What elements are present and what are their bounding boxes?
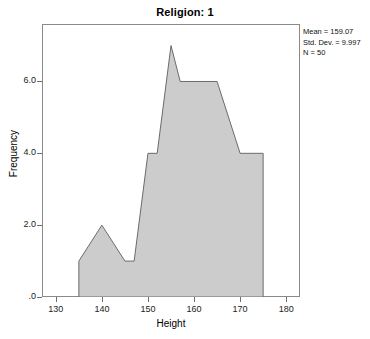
frequency-polygon-chart: Religion: 1 .02.04.06.0 1301401501601701… xyxy=(0,0,370,339)
x-axis-title: Height xyxy=(42,318,300,329)
x-axis-tick-mark xyxy=(286,297,287,302)
frequency-polygon-series xyxy=(42,24,300,297)
x-axis-tick-mark xyxy=(240,297,241,302)
y-axis-tick-label: 6.0 xyxy=(23,75,36,85)
x-axis-tick-mark xyxy=(102,297,103,302)
y-axis-tick-mark xyxy=(37,225,42,226)
series-polygon-shape xyxy=(79,46,263,297)
x-axis-tick-label: 170 xyxy=(225,304,255,314)
y-axis-tick-mark xyxy=(37,81,42,82)
stat-mean: Mean = 159.07 xyxy=(303,27,369,38)
x-axis-tick-label: 150 xyxy=(133,304,163,314)
stat-n: N = 50 xyxy=(303,48,369,59)
x-axis-tick-label: 160 xyxy=(179,304,209,314)
y-axis-tick-mark xyxy=(37,153,42,154)
y-axis-title: Frequency xyxy=(8,94,19,214)
x-axis-tick-mark xyxy=(194,297,195,302)
y-axis-tick-label: 4.0 xyxy=(23,147,36,157)
x-axis-tick-label: 180 xyxy=(271,304,301,314)
statistics-annotation: Mean = 159.07 Std. Dev. = 9.997 N = 50 xyxy=(303,27,369,59)
x-axis-tick-label: 130 xyxy=(41,304,71,314)
x-axis-tick-label: 140 xyxy=(87,304,117,314)
stat-std-dev: Std. Dev. = 9.997 xyxy=(303,38,369,49)
y-axis-tick-label: 2.0 xyxy=(23,219,36,229)
y-axis-tick-label: .0 xyxy=(28,291,36,301)
y-axis-tick-mark xyxy=(37,297,42,298)
chart-title: Religion: 1 xyxy=(0,6,370,18)
x-axis-tick-mark xyxy=(56,297,57,302)
x-axis-tick-mark xyxy=(148,297,149,302)
